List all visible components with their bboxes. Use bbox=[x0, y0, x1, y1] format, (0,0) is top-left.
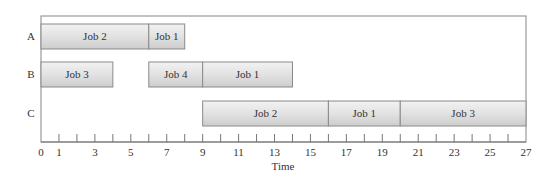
task-bar: Job 2 bbox=[41, 24, 149, 49]
x-tick-label: 1 bbox=[56, 146, 62, 158]
gantt-chart: ABC Job 2Job 1Job 3Job 4Job 1Job 2Job 1J… bbox=[0, 0, 557, 184]
x-tick-label: 17 bbox=[341, 146, 353, 158]
x-tick-label: 23 bbox=[449, 146, 461, 158]
x-tick-label: 9 bbox=[200, 146, 206, 158]
task-bar-label: Job 1 bbox=[155, 30, 179, 42]
task-bar-label: Job 3 bbox=[65, 68, 89, 80]
row-labels: ABC bbox=[27, 30, 35, 119]
x-tick-label: 15 bbox=[305, 146, 317, 158]
task-bar-label: Job 1 bbox=[236, 68, 260, 80]
x-tick-label: 0 bbox=[38, 146, 44, 158]
row-label-b: B bbox=[27, 68, 34, 80]
task-bar: Job 4 bbox=[149, 62, 203, 87]
task-bar: Job 1 bbox=[149, 24, 185, 49]
task-bars: Job 2Job 1Job 3Job 4Job 1Job 2Job 1Job 3 bbox=[41, 24, 526, 126]
task-bar-label: Job 4 bbox=[164, 68, 188, 80]
task-bar: Job 1 bbox=[328, 101, 400, 126]
x-tick-label: 19 bbox=[377, 146, 389, 158]
x-tick-label: 3 bbox=[92, 146, 98, 158]
task-bar-label: Job 1 bbox=[353, 107, 377, 119]
x-tick-label: 5 bbox=[128, 146, 134, 158]
task-bar: Job 1 bbox=[203, 62, 293, 87]
x-tick-label: 7 bbox=[164, 146, 170, 158]
x-axis: 013579111315171921232527 bbox=[38, 134, 532, 158]
task-bar: Job 3 bbox=[400, 101, 526, 126]
x-tick-label: 13 bbox=[269, 146, 281, 158]
task-bar: Job 3 bbox=[41, 62, 113, 87]
task-bar: Job 2 bbox=[203, 101, 329, 126]
x-tick-label: 21 bbox=[413, 146, 424, 158]
task-bar-label: Job 2 bbox=[83, 30, 107, 42]
row-label-a: A bbox=[27, 30, 35, 42]
task-bar-label: Job 2 bbox=[254, 107, 278, 119]
row-label-c: C bbox=[27, 107, 34, 119]
task-bar-label: Job 3 bbox=[451, 107, 475, 119]
x-tick-label: 27 bbox=[521, 146, 533, 158]
x-axis-label: Time bbox=[272, 160, 295, 172]
x-tick-label: 25 bbox=[485, 146, 497, 158]
x-tick-label: 11 bbox=[233, 146, 244, 158]
